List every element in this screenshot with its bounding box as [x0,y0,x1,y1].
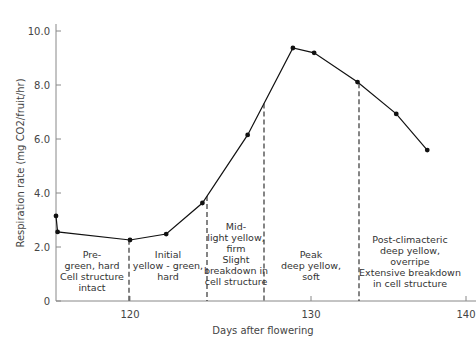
y-tick-label: 6.0 [34,134,50,145]
stage-label: Pre- [83,249,102,260]
stage-label: cell structure [205,276,268,287]
data-point [394,111,399,116]
data-point [55,229,60,234]
x-axis-label: Days after flowering [212,325,313,336]
y-tick-label: 8.0 [34,80,50,91]
stage-label: soft [302,271,320,282]
stage-label: yellow - green, [133,260,203,271]
x-tick-label: 140 [456,309,475,320]
x-tick-label: 120 [120,309,139,320]
stage-label: light yellow, [207,232,264,243]
x-tick-label: 130 [301,309,320,320]
stage-label: Mid- [226,221,246,232]
y-tick-label: 4.0 [34,188,50,199]
data-point [54,214,59,219]
stage-label: deep yellow, [281,260,341,271]
stage-label: green, hard [64,260,119,271]
data-point [164,232,169,237]
data-point [291,46,296,51]
stage-label: Post-climacteric [372,234,447,245]
y-tick-label: 0 [44,296,50,307]
stage-label: intact [78,282,105,293]
stage-label: breakdown in [204,265,268,276]
stage-label: deep yellow, [380,245,440,256]
respiration-line [56,48,427,240]
stage-label: Extensive breakdown [359,267,461,278]
data-point [245,133,250,138]
stage-label: Peak [300,249,323,260]
respiration-chart: 02.04.06.08.010.0120130140Days after flo… [0,0,476,343]
stage-label: Cell structure [60,271,124,282]
stage-label: overripe [390,256,430,267]
stage-label: hard [157,271,179,282]
stage-label: Slight [222,254,249,265]
stage-label: Initial [155,249,181,260]
y-tick-label: 2.0 [34,242,50,253]
y-tick-label: 10.0 [28,26,50,37]
stage-label: in cell structure [373,278,447,289]
data-point [425,148,430,153]
stage-label: firm [227,243,246,254]
data-point [312,50,317,55]
data-point [128,238,133,243]
data-point [200,201,205,206]
y-axis-label: Respiration rate (mg CO2/fruit/hr) [15,78,26,247]
